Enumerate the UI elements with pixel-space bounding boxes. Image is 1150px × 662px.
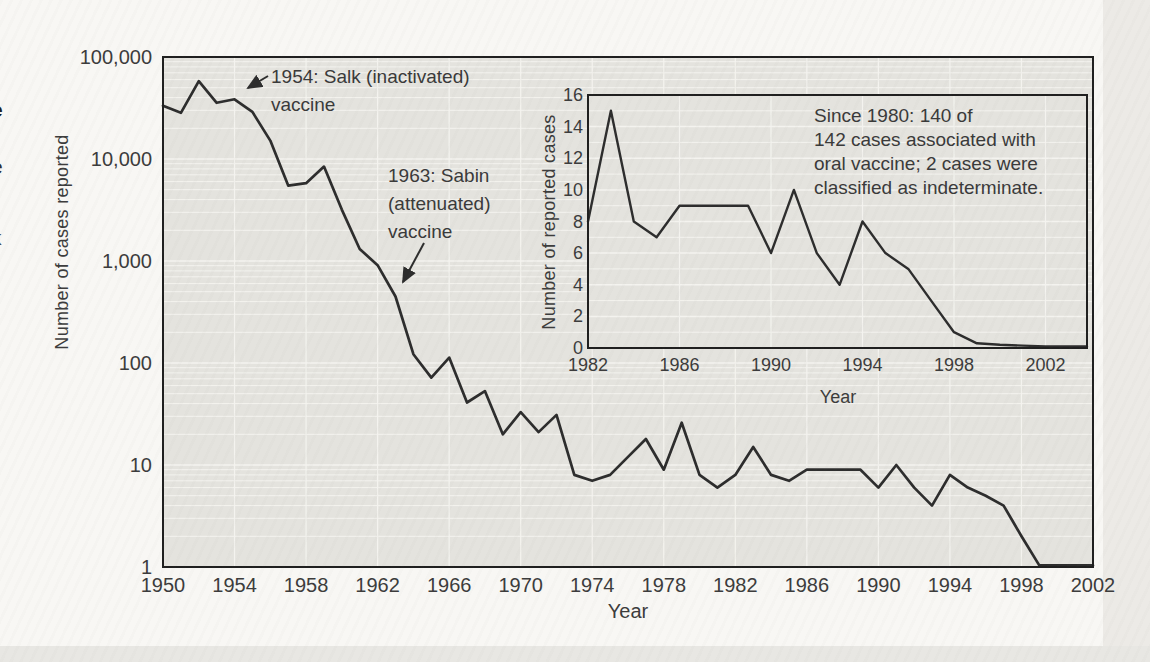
inset-y-tick-label: 4: [533, 275, 583, 296]
inset-y-tick-label: 0: [533, 338, 583, 359]
annotation-sabin-vaccine: 1963: Sabin(attenuated)vaccine: [388, 162, 490, 246]
main-y-tick-label: 1,000: [52, 250, 152, 273]
main-y-tick-label: 100: [52, 352, 152, 375]
inset-x-tick-label: 1990: [741, 355, 801, 376]
main-x-tick-label: 1954: [203, 574, 267, 597]
main-x-axis-title: Year: [608, 600, 648, 623]
left-edge-fragment: e: [0, 98, 3, 122]
main-x-tick-label: 1982: [703, 574, 767, 597]
annotation-line: 1963: Sabin: [388, 162, 490, 190]
main-x-tick-label: 2002: [1061, 574, 1125, 597]
main-y-tick-label: 10: [52, 454, 152, 477]
main-x-tick-label: 1994: [918, 574, 982, 597]
figure-canvas: Number of cases reported Year Number of …: [0, 0, 1150, 662]
left-edge-fragment: e: [0, 155, 3, 179]
inset-x-tick-label: 1994: [833, 355, 893, 376]
main-x-tick-label: 1998: [989, 574, 1053, 597]
inset-y-tick-label: 14: [533, 117, 583, 138]
annotation-line: vaccine: [271, 91, 470, 119]
main-y-tick-label: 100,000: [52, 46, 152, 69]
inset-y-tick-label: 16: [533, 85, 583, 106]
main-x-tick-label: 1962: [346, 574, 410, 597]
inset-x-tick-label: 1986: [650, 355, 710, 376]
left-edge-fragment: k: [0, 226, 2, 250]
main-x-tick-label: 1974: [560, 574, 624, 597]
main-x-tick-label: 1970: [489, 574, 553, 597]
inset-y-tick-label: 12: [533, 148, 583, 169]
annotation-line: vaccine: [388, 218, 490, 246]
inset-y-tick-label: 6: [533, 243, 583, 264]
inset-x-tick-label: 1998: [924, 355, 984, 376]
inset-x-tick-label: 2002: [1016, 355, 1076, 376]
annotation-line: (attenuated): [388, 190, 490, 218]
main-x-tick-label: 1990: [846, 574, 910, 597]
inset-note-line: classified as indeterminate.: [814, 176, 1043, 200]
main-x-tick-label: 1958: [274, 574, 338, 597]
main-x-tick-label: 1978: [632, 574, 696, 597]
inset-note-line: Since 1980: 140 of: [814, 104, 1043, 128]
inset-y-tick-label: 10: [533, 180, 583, 201]
main-y-tick-label: 10,000: [52, 148, 152, 171]
inset-y-tick-label: 2: [533, 306, 583, 327]
annotation-line: 1954: Salk (inactivated): [271, 63, 470, 91]
main-x-tick-label: 1966: [417, 574, 481, 597]
inset-note-line: 142 cases associated with: [814, 128, 1043, 152]
inset-note-oral-vaccine: Since 1980: 140 of142 cases associated w…: [814, 104, 1043, 200]
main-y-tick-label: 1: [52, 556, 152, 579]
annotation-salk-vaccine: 1954: Salk (inactivated)vaccine: [271, 63, 470, 119]
inset-note-line: oral vaccine; 2 cases were: [814, 152, 1043, 176]
main-x-tick-label: 1986: [775, 574, 839, 597]
inset-y-tick-label: 8: [533, 212, 583, 233]
inset-x-axis-title: Year: [820, 387, 856, 408]
